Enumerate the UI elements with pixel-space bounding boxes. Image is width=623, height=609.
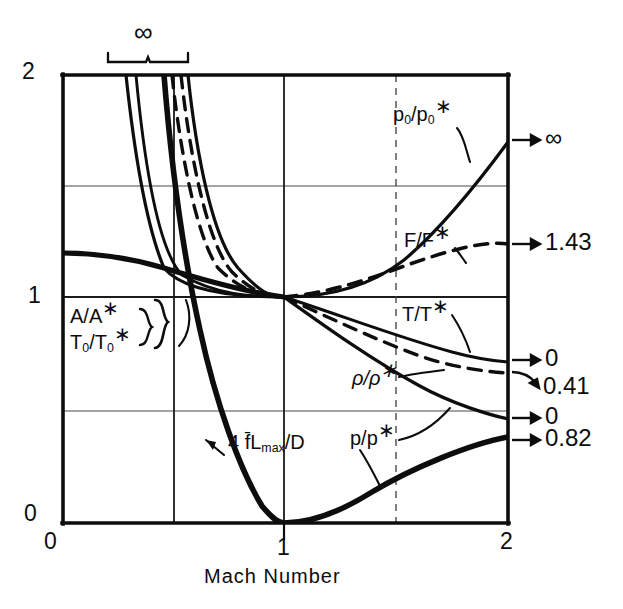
group-brace — [155, 300, 168, 348]
curve-label-F-ratio: F/F∗ — [404, 230, 451, 251]
T-ratio-text: T/T — [402, 303, 432, 325]
xtick-2: 2 — [500, 528, 513, 555]
end-value-T: 0 — [545, 344, 558, 372]
p0-ratio-star: ∗ — [435, 95, 452, 117]
top-bracket — [108, 53, 188, 62]
fanno-flow-chart: 2 1 0 0 1 2 Mach Number ∞ p0/p0∗ F/F∗ T/… — [0, 0, 623, 609]
F-ratio-star: ∗ — [434, 221, 451, 243]
area-ratio-star: ∗ — [102, 297, 119, 319]
end-value-p0: ∞ — [545, 124, 562, 152]
x-axis-title: Mach Number — [204, 565, 341, 588]
end-arrow-p — [512, 413, 540, 423]
group-label-area-and-T0: A/A∗ T0/T0∗ — [70, 304, 131, 357]
ytick-1: 1 — [28, 282, 41, 309]
p0-ratio-den-sub: 0 — [428, 113, 435, 127]
leader-fanno-left-arrowhead — [206, 440, 216, 450]
fanno-prefix: 4 f̄L — [228, 431, 261, 453]
end-arrow-p0 — [512, 135, 540, 145]
end-arrow-fanno — [512, 435, 540, 445]
fanno-suffix: /D — [285, 431, 305, 453]
xtick-1: 1 — [277, 534, 290, 561]
end-value-fanno: 0.82 — [545, 424, 592, 452]
rho-ratio-text: ρ/ρ — [352, 367, 380, 389]
end-value-rho: 0.41 — [543, 372, 590, 400]
T0-ratio-sub-b: 0 — [107, 341, 114, 355]
xtick-0: 0 — [44, 528, 57, 555]
curve-label-rho-ratio: ρ/ρ∗ — [352, 368, 397, 389]
area-ratio-text: A/A — [70, 305, 102, 327]
leader-area-ratio — [179, 300, 189, 346]
T0-ratio-b: /T — [89, 331, 107, 353]
end-arrow-rho — [512, 372, 539, 388]
end-value-F: 1.43 — [545, 228, 592, 256]
leader-rho-ratio — [399, 370, 444, 377]
end-arrow-T — [512, 355, 540, 365]
T-ratio-star: ∗ — [432, 295, 449, 317]
leader-fanno-right — [360, 450, 380, 486]
leader-p0-ratio — [457, 128, 470, 162]
ytick-2: 2 — [22, 58, 35, 85]
p-ratio-text: p/p — [350, 427, 378, 449]
curve-label-p-ratio: p/p∗ — [350, 428, 395, 449]
rho-ratio-star: ∗ — [380, 359, 397, 381]
top-bracket-infinity-label: ∞ — [134, 17, 153, 48]
group-brace-inner — [140, 309, 152, 345]
curve-label-T-ratio: T/T∗ — [402, 304, 449, 325]
leader-F-ratio — [455, 248, 466, 263]
ytick-0: 0 — [24, 500, 37, 527]
p-ratio-star: ∗ — [378, 419, 395, 441]
p0-ratio-num-sub: 0 — [404, 113, 411, 127]
leader-T-ratio — [452, 315, 470, 352]
curve-label-fanno-length: 4 f̄Lmax/D — [228, 432, 305, 455]
T0-ratio-a: T — [70, 331, 82, 353]
F-ratio-text: F/F — [404, 229, 434, 251]
T0-ratio-star: ∗ — [114, 323, 131, 345]
end-arrow-F — [512, 239, 540, 249]
fanno-sub: max — [261, 441, 284, 455]
p0-ratio-den: /p — [411, 103, 428, 125]
p0-ratio-num: p — [393, 103, 404, 125]
curve-label-p0-ratio: p0/p0∗ — [393, 104, 452, 127]
leader-p-ratio — [399, 408, 450, 440]
group-label-line-T0: T0/T0∗ — [70, 330, 131, 357]
